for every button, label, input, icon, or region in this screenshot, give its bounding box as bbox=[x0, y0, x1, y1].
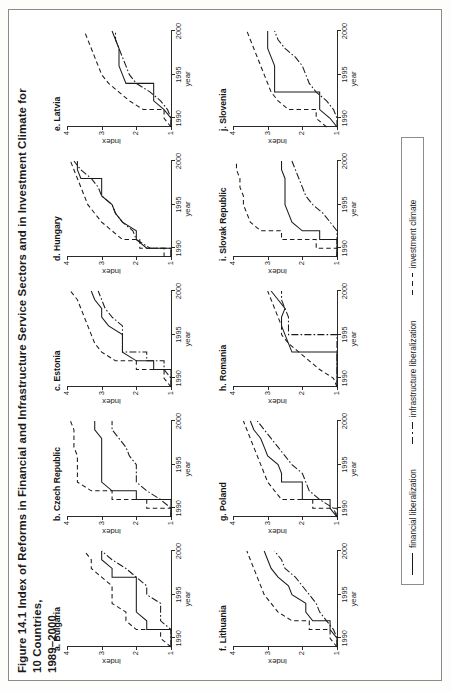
panel-title-g: g. Poland bbox=[218, 482, 228, 521]
page-border: Figure 14.1 Index of Reforms in Financia… bbox=[8, 9, 442, 681]
series-group-d bbox=[67, 161, 171, 257]
y-tick-label-c-1: 1 bbox=[167, 391, 174, 400]
y-axis-label-g: index bbox=[260, 526, 294, 535]
plot-area-h: 1234199019952000indexyear bbox=[233, 291, 337, 387]
x-axis-label-g: year bbox=[349, 421, 358, 517]
x-axis-label-h: year bbox=[349, 291, 358, 387]
x-tick-label-g-2000: 2000 bbox=[340, 407, 349, 435]
series-line-f-dash bbox=[246, 551, 336, 647]
plot-area-d: 1234199019952000indexyear bbox=[67, 161, 171, 257]
y-tick-label-h-1: 1 bbox=[333, 391, 340, 400]
y-tick-label-j-1: 1 bbox=[333, 131, 340, 140]
y-tick-label-i-4: 4 bbox=[229, 261, 236, 270]
series-line-h-dashdot bbox=[281, 291, 336, 387]
y-tick-label-g-2: 2 bbox=[298, 521, 305, 530]
series-line-f-dashdot bbox=[274, 551, 336, 647]
x-tick-label-b-2000: 2000 bbox=[174, 407, 183, 435]
figure-page: Figure 14.1 Index of Reforms in Financia… bbox=[0, 0, 451, 691]
series-line-i-dashdot bbox=[291, 161, 336, 257]
line-dashdot-icon bbox=[408, 422, 416, 444]
plot-area-c: 1234199019952000indexyear bbox=[67, 291, 171, 387]
x-tick-label-d-1990: 1990 bbox=[174, 234, 183, 262]
x-tick-label-d-1995: 1995 bbox=[174, 190, 183, 218]
x-tick-label-b-1995: 1995 bbox=[174, 450, 183, 478]
series-line-e-dashdot bbox=[115, 31, 170, 127]
panel-e: e. Latvia1234199019952000indexyear bbox=[53, 26, 203, 147]
legend-label-solid: financial liberalization bbox=[407, 469, 417, 548]
x-tick-label-f-1995: 1995 bbox=[340, 580, 349, 608]
series-line-c-dash bbox=[70, 291, 171, 387]
y-tick-label-f-1: 1 bbox=[333, 651, 340, 660]
y-tick-label-g-1: 1 bbox=[333, 521, 340, 530]
series-line-h-solid bbox=[271, 291, 337, 387]
x-tick-label-i-1990: 1990 bbox=[340, 234, 349, 262]
x-tick-label-f-2000: 2000 bbox=[340, 537, 349, 565]
figure-title-line1: Figure 14.1 Index of Reforms in Financia… bbox=[16, 88, 43, 673]
series-group-b bbox=[67, 421, 171, 517]
y-tick-label-b-4: 4 bbox=[63, 521, 70, 530]
panel-title-c: c. Estonia bbox=[52, 350, 62, 391]
x-tick-label-e-2000: 2000 bbox=[174, 17, 183, 45]
panel-title-f: f. Lithuania bbox=[218, 605, 228, 651]
x-axis-label-a: year bbox=[183, 551, 192, 647]
series-line-j-dashdot bbox=[274, 31, 336, 127]
x-tick-label-h-1990: 1990 bbox=[340, 364, 349, 392]
y-axis-label-h: index bbox=[260, 396, 294, 405]
y-axis-label-f: index bbox=[260, 656, 294, 665]
x-tick-label-e-1995: 1995 bbox=[174, 60, 183, 88]
y-tick-label-j-2: 2 bbox=[298, 131, 305, 140]
panel-f: f. Lithuania1234199019952000indexyear bbox=[219, 546, 369, 667]
series-line-d-dash bbox=[70, 161, 164, 257]
x-axis-label-j: year bbox=[349, 31, 358, 127]
y-tick-label-i-2: 2 bbox=[298, 261, 305, 270]
line-solid-icon bbox=[408, 553, 416, 575]
series-group-a bbox=[67, 551, 171, 647]
series-line-e-dash bbox=[84, 31, 171, 127]
panel-title-a: a. Bulgaria bbox=[52, 607, 62, 651]
panel-title-j: j. Slovenia bbox=[218, 88, 228, 131]
plot-area-e: 1234199019952000indexyear bbox=[67, 31, 171, 127]
series-group-e bbox=[67, 31, 171, 127]
y-tick-label-g-4: 4 bbox=[229, 521, 236, 530]
x-tick-label-a-1990: 1990 bbox=[174, 624, 183, 652]
panel-title-d: d. Hungary bbox=[52, 216, 62, 261]
x-axis-label-i: year bbox=[349, 161, 358, 257]
line-dashed-icon bbox=[408, 273, 416, 295]
x-tick-label-d-2000: 2000 bbox=[174, 147, 183, 175]
y-tick-label-c-4: 4 bbox=[63, 391, 70, 400]
series-line-b-solid bbox=[94, 421, 170, 517]
panel-h: h. Romania1234199019952000indexyear bbox=[219, 286, 369, 407]
y-tick-label-j-4: 4 bbox=[229, 131, 236, 140]
series-line-e-solid bbox=[112, 31, 171, 127]
plot-area-b: 1234199019952000indexyear bbox=[67, 421, 171, 517]
y-axis-label-j: index bbox=[260, 136, 294, 145]
x-tick-label-b-1990: 1990 bbox=[174, 494, 183, 522]
series-line-g-dashdot bbox=[257, 421, 337, 517]
x-tick-label-a-1995: 1995 bbox=[174, 580, 183, 608]
plot-area-f: 1234199019952000indexyear bbox=[233, 551, 337, 647]
series-line-h-dash bbox=[267, 291, 336, 387]
series-line-i-solid bbox=[281, 161, 336, 257]
series-line-c-solid bbox=[91, 291, 171, 387]
y-axis-label-c: index bbox=[94, 396, 128, 405]
panel-title-h: h. Romania bbox=[218, 344, 228, 390]
y-tick-label-h-4: 4 bbox=[229, 391, 236, 400]
y-tick-label-e-4: 4 bbox=[63, 131, 70, 140]
series-line-j-dash bbox=[246, 31, 326, 127]
x-axis-label-c: year bbox=[183, 291, 192, 387]
y-tick-label-c-2: 2 bbox=[132, 391, 139, 400]
series-line-d-solid bbox=[77, 161, 171, 257]
y-tick-label-i-1: 1 bbox=[333, 261, 340, 270]
y-tick-label-b-2: 2 bbox=[132, 521, 139, 530]
plot-area-i: 1234199019952000indexyear bbox=[233, 161, 337, 257]
plot-area-a: 1234199019952000indexyear bbox=[67, 551, 171, 647]
y-tick-label-d-4: 4 bbox=[63, 261, 70, 270]
y-tick-label-b-1: 1 bbox=[167, 521, 174, 530]
series-group-j bbox=[233, 31, 337, 127]
series-line-c-dashdot bbox=[98, 291, 171, 387]
x-tick-label-j-1990: 1990 bbox=[340, 104, 349, 132]
x-tick-label-i-2000: 2000 bbox=[340, 147, 349, 175]
x-tick-label-e-1990: 1990 bbox=[174, 104, 183, 132]
panel-title-b: b. Czech Republic bbox=[52, 446, 62, 520]
x-tick-label-f-1990: 1990 bbox=[340, 624, 349, 652]
